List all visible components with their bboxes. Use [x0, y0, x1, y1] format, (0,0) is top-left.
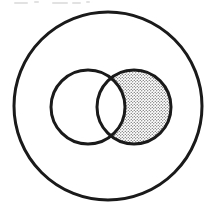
scan-artifact-mark [34, 1, 39, 3]
scan-artifact-mark [86, 1, 90, 3]
venn-diagram-canvas [0, 0, 217, 210]
scan-artifact-mark [72, 2, 81, 4]
venn-diagram-figure [0, 0, 217, 210]
scan-artifact-mark [14, 2, 28, 4]
shaded-region-right-minus-left [0, 0, 217, 210]
scan-artifact-mark [52, 2, 68, 4]
